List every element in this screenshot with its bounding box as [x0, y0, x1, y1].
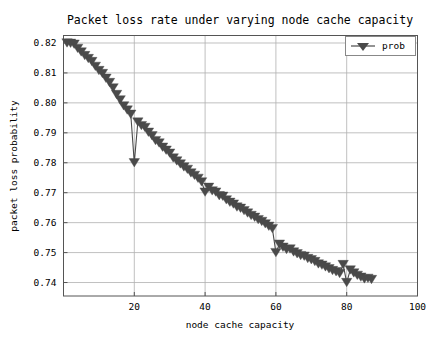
y-tick-label: 0.79 — [34, 127, 57, 138]
x-tick-label: 100 — [409, 301, 426, 312]
legend-label-prob: prob — [382, 40, 405, 51]
y-tick-label: 0.76 — [34, 217, 57, 228]
x-tick-label: 40 — [199, 301, 211, 312]
x-axis-label: node cache capacity — [186, 319, 295, 330]
legend[interactable]: prob — [346, 37, 416, 56]
x-tick-label: 80 — [341, 301, 353, 312]
x-tick-label: 60 — [270, 301, 282, 312]
y-tick-label: 0.80 — [34, 97, 57, 108]
y-tick-label: 0.81 — [34, 67, 57, 78]
x-tick-label: 20 — [129, 301, 141, 312]
chart-figure: Packet loss rate under varying node cach… — [0, 0, 438, 346]
chart-canvas: Packet loss rate under varying node cach… — [0, 0, 438, 346]
y-tick-label: 0.77 — [34, 187, 57, 198]
y-axis-label: packet loss probability — [8, 100, 19, 232]
chart-title: Packet loss rate under varying node cach… — [67, 13, 413, 27]
y-tick-label: 0.78 — [34, 157, 57, 168]
y-tick-label: 0.82 — [34, 37, 57, 48]
y-tick-label: 0.74 — [34, 277, 57, 288]
y-tick-label: 0.75 — [34, 247, 57, 258]
